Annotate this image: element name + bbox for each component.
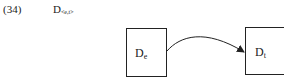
mapping-arrow-icon <box>0 0 284 79</box>
